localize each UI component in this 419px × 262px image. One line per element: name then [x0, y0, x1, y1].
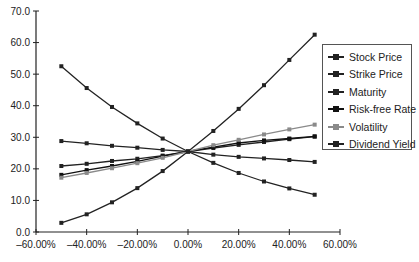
series-strike-price	[59, 64, 316, 196]
legend-label: Strike Price	[349, 68, 403, 80]
data-point	[237, 171, 241, 175]
data-point	[59, 164, 63, 168]
legend: Stock Price Strike Price Maturity Risk-f…	[322, 44, 412, 150]
x-tick-label: 0.00%	[174, 239, 202, 250]
data-point	[262, 156, 266, 160]
legend-label: Stock Price	[349, 51, 402, 63]
series-dividend-yield	[59, 139, 316, 164]
data-point	[287, 127, 291, 131]
x-tick-label: –20.00%	[118, 239, 158, 250]
data-point	[211, 129, 215, 133]
data-point	[237, 155, 241, 159]
data-point	[211, 153, 215, 157]
data-point	[135, 146, 139, 150]
data-point	[110, 200, 114, 204]
data-point	[211, 161, 215, 165]
y-tick-label: 0.0	[16, 227, 30, 238]
data-point	[59, 64, 63, 68]
data-point	[313, 193, 317, 197]
data-point	[313, 160, 317, 164]
legend-item-maturity: Maturity	[328, 83, 411, 101]
data-point	[110, 105, 114, 109]
data-point	[237, 138, 241, 142]
x-tick-label: 40.00%	[272, 239, 306, 250]
data-point	[287, 186, 291, 190]
legend-item-strike-price: Strike Price	[328, 66, 411, 84]
data-point	[161, 137, 165, 141]
series-group	[59, 33, 316, 225]
axes: 0.010.020.030.040.050.060.070.0–60.00%–4…	[11, 6, 358, 251]
data-point	[287, 158, 291, 162]
legend-marker-icon	[328, 69, 344, 79]
data-point	[135, 186, 139, 190]
legend-item-volatility: Volatility	[328, 118, 411, 136]
legend-marker-icon	[328, 104, 344, 114]
legend-label: Dividend Yield	[349, 138, 416, 150]
legend-label: Volatility	[349, 121, 388, 133]
x-tick-label: –40.00%	[67, 239, 107, 250]
data-point	[110, 159, 114, 163]
data-point	[59, 139, 63, 143]
data-point	[161, 169, 165, 173]
legend-item-dividend-yield: Dividend Yield	[328, 136, 411, 154]
data-point	[186, 149, 190, 153]
legend-item-risk-free-rate: Risk-free Rate	[328, 101, 411, 119]
legend-label: Maturity	[349, 86, 386, 98]
y-tick-label: 60.0	[11, 37, 31, 48]
y-tick-label: 10.0	[11, 195, 31, 206]
x-tick-label: –60.00%	[16, 239, 56, 250]
data-point	[85, 86, 89, 90]
data-point	[135, 121, 139, 125]
y-tick-label: 50.0	[11, 69, 31, 80]
data-point	[85, 171, 89, 175]
data-point	[110, 166, 114, 170]
data-point	[85, 141, 89, 145]
legend-item-stock-price: Stock Price	[328, 48, 411, 66]
data-point	[85, 162, 89, 166]
legend-marker-icon	[328, 87, 344, 97]
data-point	[211, 143, 215, 147]
data-point	[59, 176, 63, 180]
data-point	[262, 83, 266, 87]
sensitivity-line-chart: 0.010.020.030.040.050.060.070.0–60.00%–4…	[0, 0, 419, 262]
data-point	[237, 107, 241, 111]
legend-label: Risk-free Rate	[349, 103, 416, 115]
y-tick-label: 40.0	[11, 100, 31, 111]
data-point	[313, 123, 317, 127]
data-point	[262, 132, 266, 136]
y-tick-label: 70.0	[11, 6, 31, 17]
data-point	[313, 134, 317, 138]
data-point	[262, 179, 266, 183]
data-point	[287, 58, 291, 62]
legend-marker-icon	[328, 122, 344, 132]
series-stock-price	[59, 33, 316, 225]
y-tick-label: 30.0	[11, 132, 31, 143]
x-tick-label: 20.00%	[222, 239, 256, 250]
data-point	[135, 161, 139, 165]
data-point	[161, 156, 165, 160]
data-point	[262, 138, 266, 142]
data-point	[313, 33, 317, 37]
data-point	[161, 148, 165, 152]
legend-marker-icon	[328, 52, 344, 62]
data-point	[287, 137, 291, 141]
data-point	[110, 144, 114, 148]
legend-marker-icon	[328, 139, 344, 149]
y-tick-label: 20.0	[11, 163, 31, 174]
data-point	[85, 212, 89, 216]
x-tick-label: 60.00%	[323, 239, 357, 250]
data-point	[59, 221, 63, 225]
